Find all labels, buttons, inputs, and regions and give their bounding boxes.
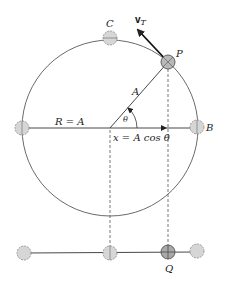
label-q: Q: [165, 263, 173, 274]
ball-p: [161, 55, 175, 69]
angle-arc: [128, 108, 137, 128]
label-velocity: vT: [135, 14, 147, 27]
ball-bottom-center: [103, 246, 117, 260]
label-hypotenuse: A: [131, 86, 139, 97]
ball-bottom-left: [17, 246, 31, 260]
label-p: P: [175, 48, 183, 59]
ball-q: [161, 245, 175, 259]
circular-motion-diagram: C P B Q vT R = A A θ x = A cos θ: [0, 0, 227, 285]
ball-c: [103, 31, 117, 45]
label-c: C: [106, 18, 114, 29]
ball-b: [190, 120, 204, 134]
label-angle: θ: [123, 115, 128, 124]
label-radius: R = A: [54, 116, 85, 127]
ball-left: [15, 121, 29, 135]
label-b: B: [205, 122, 213, 133]
label-projection: x = A cos θ: [113, 132, 170, 143]
ball-bottom-right: [190, 244, 204, 258]
